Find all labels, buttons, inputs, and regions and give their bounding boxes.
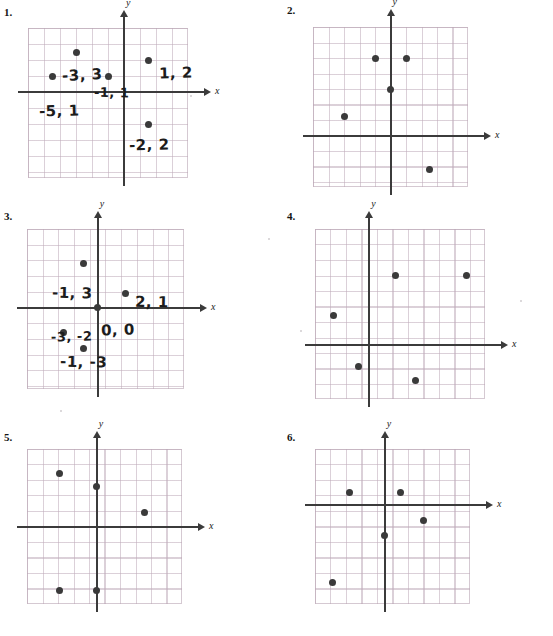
y-axis-arrow-icon	[381, 431, 389, 438]
plotted-point	[397, 489, 404, 496]
paper-speck	[268, 238, 270, 240]
problem-6: 6.xy	[0, 0, 553, 636]
worksheet-page: 1.xy-3, 31, 2-1, 1-5, 1-2, 22.xy3.xy-1, …	[0, 0, 553, 636]
paper-speck	[60, 410, 62, 412]
y-axis-label: y	[387, 418, 391, 429]
paper-speck	[520, 300, 522, 302]
plotted-point	[420, 517, 427, 524]
coordinate-plane: xy	[315, 449, 470, 604]
grid-border	[315, 449, 470, 604]
problem-number: 6.	[287, 431, 295, 443]
x-axis	[305, 504, 486, 506]
y-axis	[384, 437, 386, 612]
x-axis-arrow-icon	[486, 501, 493, 509]
plotted-point	[346, 489, 353, 496]
plotted-point	[329, 579, 336, 586]
paper-speck	[190, 95, 192, 97]
x-axis-label: x	[497, 498, 501, 509]
paper-speck	[300, 330, 302, 332]
